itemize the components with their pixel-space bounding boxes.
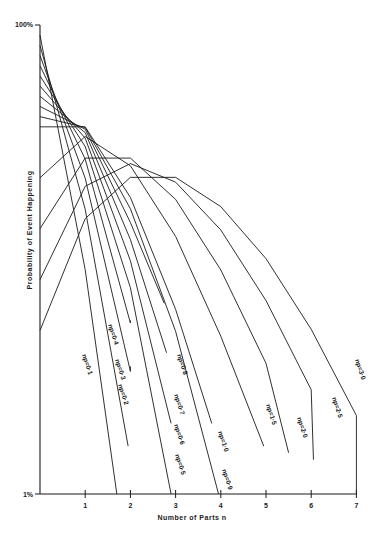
x-tick-label: 2 [128,502,132,509]
curve-label: np=0·6 [172,423,186,446]
poisson-probability-chart: np=0·1np=0·2np=0·3np=0·4np=0·5np=0·6np=0… [0,0,377,537]
curve-np=3·0 [40,177,356,494]
curve-label: np=0·1 [80,353,94,376]
x-tick-label: 7 [354,502,358,509]
curve-label: np=0·3 [113,358,127,381]
x-tick-label: 5 [264,502,268,509]
curve-np=1·0 [40,127,212,424]
curve-label: np=3·0 [353,358,367,381]
curve-np=0·8 [40,106,164,303]
curve-label: np=0·7 [172,393,186,416]
curve-label: np=0·2 [116,383,130,406]
curve-label: np=1·5 [264,403,278,426]
curve-np=1·5 [40,136,264,446]
x-tick-label: 4 [219,502,223,509]
curve-label: np=0·5 [173,453,187,476]
curve-label: np=1·0 [216,430,230,453]
x-tick-label: 6 [309,502,313,509]
y-tick-label-bottom: 1% [23,491,34,498]
curve-label: np=0·9 [220,468,234,491]
y-tick-label-top: 100% [15,21,34,28]
curve-label: np=0·8 [175,353,189,376]
curve-np=0·3 [40,56,130,372]
x-tick-group: 1234567 [83,490,358,509]
x-axis-title: Number of Parts n [157,514,226,521]
curve-label: np=2·5 [330,396,344,419]
curve-label-group: np=0·1np=0·2np=0·3np=0·4np=0·5np=0·6np=0… [80,323,367,491]
x-tick-label: 3 [174,502,178,509]
curve-label: np=2·0 [295,416,309,439]
y-axis-title: Probability of Event Happening [26,171,34,290]
x-tick-label: 1 [83,502,87,509]
curve-group [40,35,356,494]
